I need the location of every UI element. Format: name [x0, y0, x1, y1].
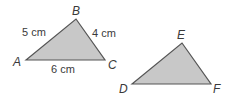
- side-label-bc: 4 cm: [92, 27, 116, 39]
- side-label-ab: 5 cm: [22, 26, 46, 38]
- triangle-diagram: A B C 5 cm 4 cm 6 cm D E F: [0, 0, 229, 98]
- vertex-label-b: B: [72, 4, 80, 18]
- vertex-label-a: A: [12, 55, 21, 69]
- triangle-def: [132, 43, 211, 84]
- vertex-label-d: D: [119, 82, 128, 96]
- vertex-label-f: F: [213, 82, 221, 96]
- side-label-ac: 6 cm: [51, 63, 75, 75]
- vertex-label-c: C: [108, 58, 117, 72]
- vertex-label-e: E: [177, 28, 186, 42]
